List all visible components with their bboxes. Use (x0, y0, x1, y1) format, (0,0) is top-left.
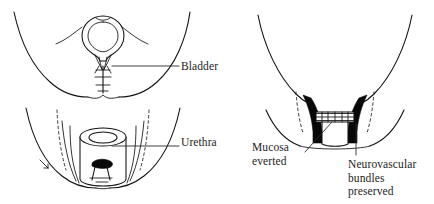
pelvic-funnel-right-outline (362, 15, 412, 103)
left-panel-upper-view (14, 12, 190, 98)
retraction-arrow-left (40, 160, 48, 168)
right-panel-anastomosis-view (258, 15, 412, 155)
fascial-fiber-left-1 (62, 121, 76, 181)
label-mucosa-line-2: everted (252, 155, 287, 167)
label-neuro-line-2: bundles (348, 172, 384, 184)
dissection-plane-dashed-right-outer (367, 92, 374, 133)
left-panel-lower-view (26, 108, 180, 189)
label-mucosa-line-1: Mucosa (252, 141, 289, 153)
pelvic-floor-arc-right (370, 110, 404, 146)
label-neurovascular-bundles: Neurovascularbundlespreserved (348, 158, 416, 199)
fascial-fiber-right-1 (130, 121, 144, 181)
label-urethra: Urethra (181, 136, 217, 150)
label-neuro-line-3: preserved (348, 185, 394, 197)
lateral-ligament-right (122, 27, 148, 44)
figure-root: Bladder Urethra Mucosaeverted Neurovascu… (0, 0, 434, 204)
lateral-ligament-left (56, 27, 82, 44)
label-mucosa-everted: Mucosaeverted (252, 141, 289, 168)
pelvic-sidewall-left-outline (14, 12, 88, 97)
fascial-fiber-left-2 (70, 126, 79, 183)
pelvic-funnel-left-outline (258, 15, 308, 103)
fascial-fiber-right-2 (127, 126, 136, 183)
pelvic-floor-hammock (88, 95, 119, 98)
suture-tail-left (95, 66, 99, 73)
suture-tail-right (107, 66, 111, 73)
label-bladder: Bladder (181, 60, 218, 74)
pelvic-floor-base-arc (96, 188, 110, 189)
pelvic-sidewall-right-outline (119, 12, 190, 97)
label-neuro-line-1: Neurovascular (348, 158, 416, 170)
dissection-plane-dashed-left-outer (296, 92, 303, 133)
